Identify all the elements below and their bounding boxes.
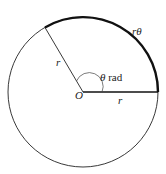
radius-label-upper: r: [56, 56, 61, 68]
arc-label: rθ: [132, 25, 142, 37]
radius-upper-left: [45, 28, 83, 93]
radius-label-right: r: [118, 94, 123, 106]
center-label: O: [75, 89, 83, 101]
angle-label: θ rad: [100, 71, 123, 83]
radian-diagram: O r r θ rad rθ: [0, 0, 166, 174]
